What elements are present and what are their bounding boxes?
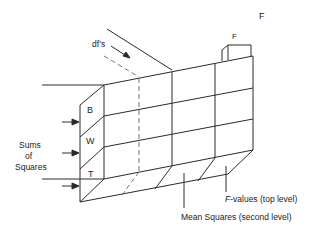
- f-block: [222, 45, 251, 61]
- f-small-label: F: [232, 33, 237, 41]
- row-label-t: T: [88, 170, 94, 179]
- row-label-w: W: [86, 137, 95, 146]
- mean-squares-label: Mean Squares (second level): [181, 213, 292, 222]
- front-top-edge: [104, 56, 253, 85]
- side-divider-1: [80, 116, 104, 137]
- f-values-rest: -values (top level): [230, 194, 297, 204]
- front-bottom-edge: [104, 150, 253, 179]
- arrowhead-w: [72, 150, 79, 156]
- f-values-label: F-values (top level): [225, 195, 297, 204]
- bottom-diag-2: [198, 158, 215, 181]
- dfs-dashed-line: [104, 56, 139, 77]
- arrowhead-t: [72, 183, 79, 189]
- arrowhead-b: [72, 119, 79, 125]
- row-divider-1: [104, 88, 253, 116]
- sums-label-line3: Squares: [15, 163, 47, 172]
- dfs-arrowhead: [123, 52, 130, 58]
- dfs-label: df’s: [92, 40, 105, 49]
- bottom-back-edge: [80, 174, 228, 202]
- side-divider-2: [80, 147, 104, 169]
- sums-label-line1: Sums: [19, 141, 41, 150]
- f-top-label: F: [259, 12, 265, 21]
- row-label-b: B: [87, 106, 93, 115]
- bottom-right-edge: [228, 150, 253, 174]
- row-divider-2: [104, 119, 253, 147]
- sums-label-line2: of: [25, 152, 32, 161]
